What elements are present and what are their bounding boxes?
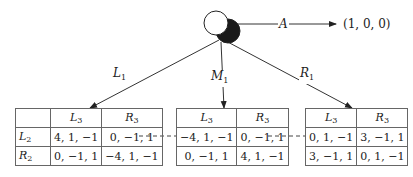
- payoff-cell: 3, −1, 1: [357, 128, 408, 147]
- action-a-label: A: [278, 18, 289, 30]
- payoff-cell: 0, −1, 1: [51, 147, 102, 166]
- player-node-light-icon: [204, 11, 228, 35]
- corner-cell: [16, 109, 51, 128]
- row-header-l2: L2: [16, 128, 51, 147]
- payoff-cell: −4, 1, −1: [102, 147, 162, 166]
- exit-payoff: (1, 0, 0): [343, 18, 391, 30]
- col-header-r3: R3: [357, 109, 408, 128]
- col-header-l3: L3: [306, 109, 357, 128]
- payoff-table-r1: L3 R3 0, 1, −1 3, −1, 1 3, −1, 1 0, 1, −…: [305, 108, 408, 166]
- action-l1-edge: [90, 40, 219, 108]
- payoff-table-m1: L3 R3 −4, 1, −1 0, −1, 1 0, −1, 1 4, 1, …: [176, 108, 289, 166]
- payoff-table-l1: L3 R3 L2 4, 1, −1 0, −1, 1 R2 0, −1, 1 −…: [15, 108, 163, 166]
- action-m1-label: M1: [210, 70, 229, 87]
- col-header-r3: R3: [102, 109, 162, 128]
- col-header-l3: L3: [51, 109, 102, 128]
- payoff-cell: 0, 1, −1: [306, 128, 357, 147]
- col-header-r3: R3: [237, 109, 288, 128]
- action-r1-label: R1: [299, 67, 315, 84]
- payoff-cell: 0, −1, 1: [237, 128, 288, 147]
- payoff-cell: 0, −1, 1: [177, 147, 237, 166]
- payoff-cell: 4, 1, −1: [51, 128, 102, 147]
- payoff-cell: 0, 1, −1: [357, 147, 408, 166]
- payoff-cell: −4, 1, −1: [177, 128, 237, 147]
- payoff-cell: 0, −1, 1: [102, 128, 162, 147]
- action-l1-label: L1: [112, 67, 127, 84]
- action-r1-edge: [224, 40, 352, 108]
- row-header-r2: R2: [16, 147, 51, 166]
- payoff-cell: 4, 1, −1: [237, 147, 288, 166]
- payoff-cell: 3, −1, 1: [306, 147, 357, 166]
- col-header-l3: L3: [177, 109, 237, 128]
